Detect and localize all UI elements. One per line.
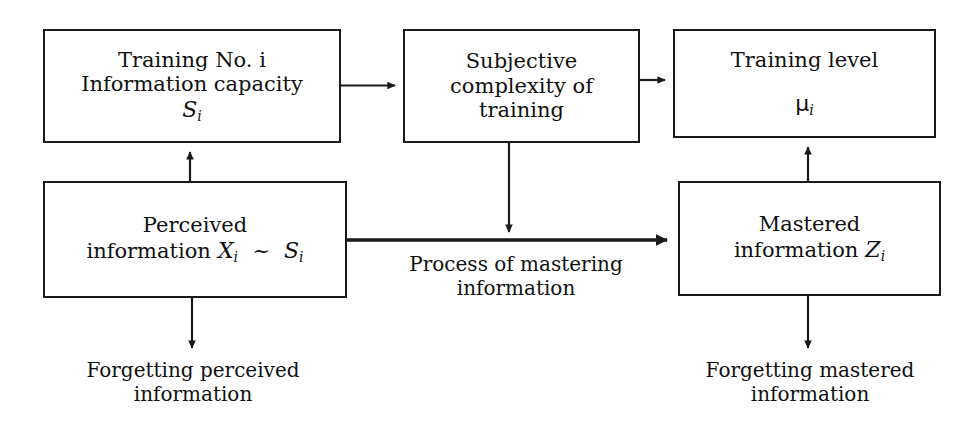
symbol-Z: Z [865,237,880,262]
node-training-level[interactable]: Training level μi [673,29,936,138]
node-training-level-line-1: Training level [731,48,878,73]
node-subjective-line-2: complexity of [450,74,593,99]
node-mastered-line-1: Mastered [759,212,861,237]
symbol-mu-subscript: i [809,102,813,118]
node-mastered-line-2: information Zi [734,237,885,264]
node-perceived-text: information [86,239,210,263]
label-process-of-mastering: Process of mastering information [390,252,642,301]
symbol-S-subscript: i [197,108,201,124]
node-perceived-line-1: Perceived [143,213,247,238]
node-mastered-text: information [734,238,858,262]
symbol-mu: μ [795,91,809,116]
node-subjective-line-3: training [479,98,564,123]
node-subjective-complexity[interactable]: Subjective complexity of training [403,29,640,143]
node-subjective-line-1: Subjective [466,49,578,74]
label-forgetting-mastered: Forgetting mastered information [645,358,975,407]
node-mastered-information[interactable]: Mastered information Zi [678,181,941,296]
node-perceived-information[interactable]: Perceived information Xi ~ Si [43,181,347,298]
node-training-capacity-line-1: Training No. i [118,48,266,73]
node-training-capacity-line-2: Information capacity [81,72,303,97]
node-training-capacity[interactable]: Training No. i Information capacity Si [43,29,341,143]
symbol-Z-subscript: i [881,248,885,264]
diagram-canvas: Training No. i Information capacity Si S… [0,0,976,438]
symbol-X: X [218,238,234,263]
symbol-S2-subscript: i [299,249,303,265]
node-training-capacity-symbol: Si [182,97,202,124]
label-forgetting-perceived: Forgetting perceived information [28,358,358,407]
relation-tilde: ~ [252,239,270,263]
node-perceived-line-2: information Xi ~ Si [86,238,303,265]
symbol-S2: S [284,238,299,263]
symbol-S: S [182,97,197,122]
node-training-level-symbol: μi [795,91,813,118]
